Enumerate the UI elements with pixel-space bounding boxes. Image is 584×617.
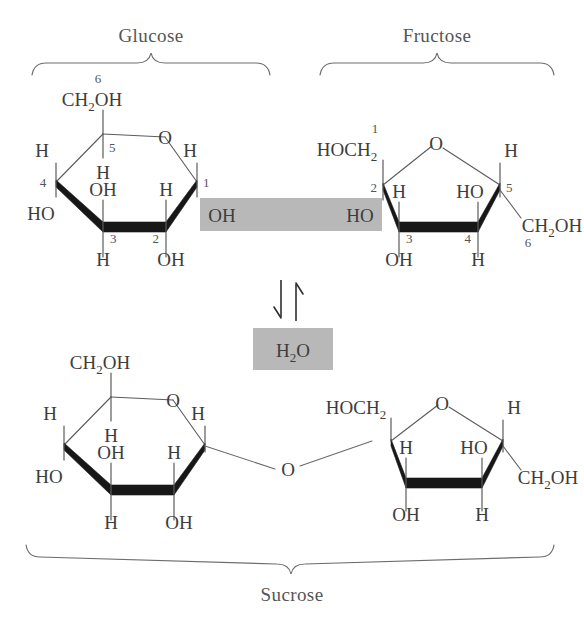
sucrose-brace: [26, 545, 554, 574]
glucose-brace: [32, 53, 270, 75]
glucose-c3-h: H: [96, 249, 110, 270]
fructose-brace: [320, 53, 554, 75]
sucrose-fructose-c3-h: H: [399, 437, 413, 458]
fructose-locant-3: 3: [406, 231, 413, 246]
fructose-ring-oxygen: O: [429, 133, 443, 154]
fructose-title: Fructose: [403, 25, 472, 46]
sucrose-glucose-c2-oh: OH: [165, 512, 193, 533]
fructose-locant-1: 1: [372, 121, 379, 136]
sucrose-glucose-ring-oxygen: O: [166, 390, 180, 411]
glucose-c4-h: H: [35, 140, 49, 161]
sucrose-fructose-c4-h: H: [475, 504, 489, 525]
sucrose-glucose-c3-oh: OH: [97, 442, 125, 463]
glucose-c4-ho: HO: [27, 203, 54, 224]
fructose-locant-6: 6: [525, 235, 532, 250]
sucrose-fructose-c4-ho: HO: [460, 437, 487, 458]
glucose-c1-h: H: [183, 140, 197, 161]
fructose-c4-ho: HO: [456, 181, 483, 202]
sucrose-fructose-c6-label: CH2OH: [518, 467, 579, 492]
glucose-c6-label: CH2OH: [62, 89, 123, 114]
fructose-locant-2: 2: [371, 180, 378, 195]
reaction-scheme-svg: Glucose Fructose O 6 CH2OH 5: [0, 0, 584, 617]
glycosidic-linkage: O: [205, 441, 372, 480]
fructose-c5-h: H: [504, 140, 518, 161]
sucrose-fructose-unit: O HOCH2 H OH HO H H CH2OH: [326, 393, 579, 525]
sucrose-glucose-c4-h: H: [43, 403, 57, 424]
highlight-ho-label: HO: [346, 205, 373, 226]
sucrose-glucose-c4-ho: HO: [35, 466, 62, 487]
glucose-locant-3: 3: [110, 231, 117, 246]
fructose-locant-5: 5: [506, 180, 513, 195]
fructose-c4-h: H: [471, 249, 485, 270]
glucose-locant-5: 5: [109, 140, 116, 155]
glucose-locant-4: 4: [40, 175, 47, 190]
sucrose-fructose-c1-label: HOCH2: [326, 397, 386, 422]
glucose-c2-oh: OH: [157, 249, 185, 270]
fructose-locant-4: 4: [465, 231, 472, 246]
glucose-c2-h: H: [159, 179, 173, 200]
sucrose-glucose-c3-h: H: [104, 512, 118, 533]
fructose-ring: O 1 HOCH2 2 H 3 OH HO 4 H H 5 CH2OH 6: [317, 121, 583, 270]
sucrose-fructose-ring-oxygen: O: [435, 393, 449, 414]
glucose-title: Glucose: [118, 25, 183, 46]
glucose-c3-oh: OH: [89, 179, 117, 200]
sucrose-fructose-c3-oh: OH: [392, 504, 420, 525]
sucrose-glucose-c1-h: H: [191, 403, 205, 424]
fructose-c3-h: H: [392, 181, 406, 202]
glucose-locant-1: 1: [203, 175, 210, 190]
glucose-locant-2: 2: [153, 231, 160, 246]
sucrose-glucose-c6-label: CH2OH: [70, 352, 131, 377]
sucrose-glucose-c2-h: H: [167, 442, 181, 463]
glucose-ring: O 6 CH2OH 5 H H 4 HO OH 3 H H 2 OH: [27, 71, 209, 270]
fructose-c3-oh: OH: [385, 249, 413, 270]
fructose-c1-label: HOCH2: [317, 139, 377, 164]
sucrose-fructose-c5-h: H: [507, 397, 521, 418]
highlight-oh-label: OH: [208, 205, 236, 226]
sucrose-formation-diagram: Glucose Fructose O 6 CH2OH 5: [0, 0, 584, 617]
sucrose-title: Sucrose: [261, 584, 324, 605]
sucrose-glucose-unit: O CH2OH H H HO OH H H OH H: [35, 352, 205, 533]
glycosidic-oxygen: O: [281, 459, 295, 480]
glucose-ring-oxygen: O: [158, 127, 172, 148]
equilibrium-arrows: [274, 280, 303, 321]
glucose-locant-6: 6: [95, 71, 102, 86]
